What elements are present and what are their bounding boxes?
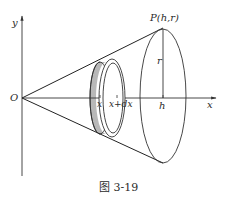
- figure-caption: 图 3-19: [99, 182, 138, 193]
- x-axis-label: x: [207, 100, 213, 110]
- origin-label: O: [10, 93, 18, 103]
- point-p-label: P(h,r): [150, 13, 179, 23]
- x-position-label: x: [97, 100, 102, 109]
- y-axis-label: y: [12, 18, 18, 28]
- radius-label: r: [157, 56, 162, 66]
- h-label: h: [159, 101, 165, 111]
- x-plus-dx-label: x+dx: [109, 100, 132, 109]
